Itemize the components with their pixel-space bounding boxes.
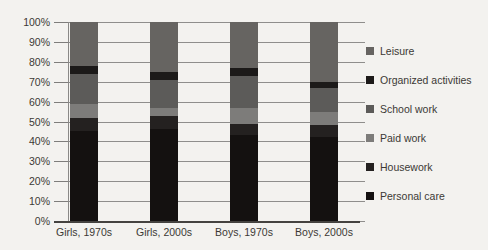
y-axis-label-70: 70% xyxy=(6,77,50,87)
bar-segment-housework xyxy=(150,116,178,130)
legend-label: Leisure xyxy=(380,45,414,57)
bar-segment-leisure xyxy=(230,22,258,68)
bar-boys-1970s xyxy=(230,22,258,221)
bar-segment-school-work xyxy=(150,80,178,108)
legend-swatch-icon xyxy=(366,76,374,84)
y-axis-label-100: 100% xyxy=(6,17,50,27)
bar-segment-paid-work xyxy=(310,112,338,126)
bar-boys-2000s xyxy=(310,22,338,221)
x-axis-baseline xyxy=(54,221,360,223)
y-axis-label-10: 10% xyxy=(6,196,50,206)
bar-segment-leisure xyxy=(70,22,98,66)
y-tick-100 xyxy=(54,22,68,23)
bar-segment-paid-work xyxy=(230,108,258,124)
legend-item-school-work: School work xyxy=(366,103,437,115)
bar-segment-school-work xyxy=(310,88,338,112)
y-axis-label-90: 90% xyxy=(6,37,50,47)
y-tick-70 xyxy=(54,82,68,83)
y-axis-label-0: 0% xyxy=(6,216,50,226)
bar-segment-housework xyxy=(310,125,338,137)
legend-item-personal-care: Personal care xyxy=(366,190,445,202)
legend-item-leisure: Leisure xyxy=(366,45,414,57)
legend-swatch-icon xyxy=(366,192,374,200)
legend-swatch-icon xyxy=(366,134,374,142)
legend-item-housework: Housework xyxy=(366,161,433,173)
legend-label: Personal care xyxy=(380,190,445,202)
bar-segment-school-work xyxy=(230,76,258,108)
legend-item-paid-work: Paid work xyxy=(366,132,426,144)
bar-segment-personal-care xyxy=(230,135,258,221)
x-axis-label-4: Boys, 2000s xyxy=(279,226,369,238)
y-axis-label-50: 50% xyxy=(6,117,50,127)
bar-segment-personal-care xyxy=(310,137,338,221)
y-tick-50 xyxy=(54,122,68,123)
bar-segment-personal-care xyxy=(70,131,98,221)
y-axis-label-40: 40% xyxy=(6,136,50,146)
bar-segment-paid-work xyxy=(150,108,178,116)
legend-label: Organized activities xyxy=(380,74,472,86)
y-tick-30 xyxy=(54,161,68,162)
legend-item-organized-activities: Organized activities xyxy=(366,74,472,86)
x-axis-label-2: Girls, 2000s xyxy=(119,226,209,238)
bar-girls-2000s xyxy=(150,22,178,221)
bar-segment-organized-activities xyxy=(150,72,178,80)
stacked-bar-chart: 0%10%20%30%40%50%60%70%80%90%100%Girls, … xyxy=(0,0,488,250)
y-tick-60 xyxy=(54,102,68,103)
y-axis-label-80: 80% xyxy=(6,57,50,67)
legend-label: Housework xyxy=(380,161,433,173)
y-axis-line xyxy=(68,22,69,221)
bar-segment-housework xyxy=(230,124,258,136)
y-axis-label-60: 60% xyxy=(6,97,50,107)
bar-segment-school-work xyxy=(70,74,98,104)
bar-segment-organized-activities xyxy=(70,66,98,74)
x-axis-label-1: Girls, 1970s xyxy=(39,226,129,238)
bar-segment-leisure xyxy=(310,22,338,82)
y-tick-80 xyxy=(54,62,68,63)
legend-label: Paid work xyxy=(380,132,426,144)
legend-swatch-icon xyxy=(366,47,374,55)
legend-swatch-icon xyxy=(366,163,374,171)
bar-girls-1970s xyxy=(70,22,98,221)
bar-segment-organized-activities xyxy=(310,82,338,88)
y-tick-40 xyxy=(54,141,68,142)
bar-segment-housework xyxy=(70,118,98,132)
bar-segment-leisure xyxy=(150,22,178,72)
legend-label: School work xyxy=(380,103,437,115)
y-axis-label-30: 30% xyxy=(6,156,50,166)
bar-segment-organized-activities xyxy=(230,68,258,76)
y-tick-10 xyxy=(54,201,68,202)
y-tick-20 xyxy=(54,181,68,182)
x-axis-label-3: Boys, 1970s xyxy=(199,226,289,238)
y-tick-90 xyxy=(54,42,68,43)
legend-swatch-icon xyxy=(366,105,374,113)
bar-segment-paid-work xyxy=(70,104,98,118)
bar-segment-personal-care xyxy=(150,129,178,221)
y-axis-label-20: 20% xyxy=(6,176,50,186)
